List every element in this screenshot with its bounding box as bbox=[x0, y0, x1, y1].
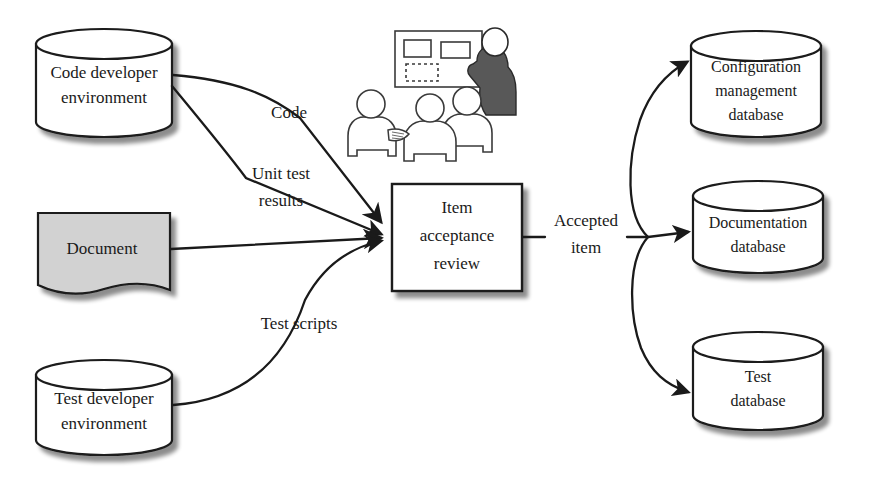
connector-to-documentation-database bbox=[648, 232, 688, 237]
node-code-developer-environment[interactable] bbox=[36, 29, 172, 137]
edge-label-accepted-item-line1: Accepted bbox=[554, 211, 619, 230]
audience-head-right bbox=[453, 87, 481, 115]
node-label-configuration-management-database-line3: database bbox=[728, 106, 783, 123]
diagram-canvas: Code developer environment Document Test… bbox=[0, 0, 880, 488]
node-label-code-developer-environment-line2: environment bbox=[61, 88, 147, 107]
audience-figure-middle-icon bbox=[404, 94, 456, 161]
audience-body-middle bbox=[404, 121, 456, 161]
node-label-test-developer-environment-line1: Test developer bbox=[54, 389, 154, 408]
connector-to-configuration-management-database bbox=[630, 62, 687, 237]
whiteboard-rect-1 bbox=[404, 40, 431, 57]
node-label-configuration-management-database-line1: Configuration bbox=[711, 58, 801, 76]
whiteboard-icon bbox=[395, 31, 482, 87]
whiteboard-rect-2 bbox=[441, 42, 470, 58]
edge-label-accepted-item-line2: item bbox=[571, 238, 601, 257]
process-diagram: Code developer environment Document Test… bbox=[0, 0, 880, 488]
cylinder-top bbox=[693, 181, 823, 211]
edge-label-test-scripts: Test scripts bbox=[261, 314, 338, 333]
node-label-test-database-line1: Test bbox=[745, 368, 772, 385]
presenter-head bbox=[482, 28, 508, 56]
edge-label-unit-test-results-line1: Unit test bbox=[252, 164, 310, 183]
node-label-configuration-management-database-line2: management bbox=[715, 82, 797, 100]
edge-label-unit-test-results-line2: results bbox=[259, 191, 303, 210]
connector-document bbox=[171, 238, 381, 249]
cylinder-top bbox=[36, 360, 172, 390]
node-label-test-database-line2: database bbox=[730, 392, 785, 409]
node-label-documentation-database-line1: Documentation bbox=[709, 214, 808, 231]
edge-label-code: Code bbox=[271, 103, 307, 122]
node-label-code-developer-environment-line1: Code developer bbox=[50, 63, 157, 82]
audience-figure-left-icon bbox=[348, 90, 409, 156]
audience-head-left bbox=[357, 90, 385, 118]
node-label-item-acceptance-review-line3: review bbox=[434, 254, 481, 273]
node-label-documentation-database-line2: database bbox=[730, 238, 785, 255]
node-label-test-developer-environment-line2: environment bbox=[61, 414, 147, 433]
review-meeting-illustration bbox=[348, 28, 516, 161]
node-label-document: Document bbox=[67, 239, 138, 258]
audience-head-middle bbox=[416, 94, 444, 122]
cylinder-top bbox=[693, 332, 823, 362]
node-label-item-acceptance-review-line2: acceptance bbox=[420, 226, 495, 245]
connector-to-test-database bbox=[632, 237, 688, 392]
cylinder-top bbox=[36, 29, 172, 59]
cylinder-top bbox=[691, 31, 821, 61]
node-label-item-acceptance-review-line1: Item bbox=[441, 198, 472, 217]
